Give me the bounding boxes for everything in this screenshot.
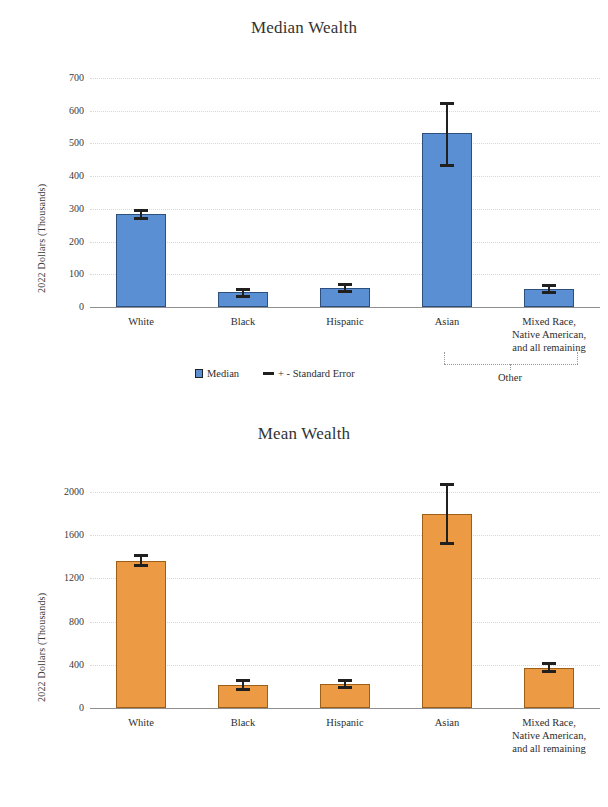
x-axis-tick-label-line: Black <box>188 716 298 729</box>
bracket-left-tick <box>444 352 445 364</box>
median-plot-area: 2022 Dollars (Thousands) 010020030040050… <box>0 38 608 338</box>
y-axis-tick-label: 200 <box>44 236 84 247</box>
x-axis-tick-label: Hispanic <box>290 716 400 729</box>
y-axis-tick-label: 700 <box>44 72 84 83</box>
y-axis-tick-label: 400 <box>44 659 84 670</box>
x-axis-tick-label: White <box>86 315 196 328</box>
error-bar-cap-upper <box>236 679 250 682</box>
legend-item-standard-error: + - Standard Error <box>263 368 355 379</box>
x-axis-line <box>90 307 600 308</box>
gridline <box>90 111 600 112</box>
x-axis-tick-label: Hispanic <box>290 315 400 328</box>
gridline <box>90 143 600 144</box>
gridline <box>90 176 600 177</box>
x-axis-tick-label-line: Mixed Race, <box>494 315 604 328</box>
error-bar-cap-lower <box>542 291 556 294</box>
error-bar-cap-lower <box>236 295 250 298</box>
gridline <box>90 492 600 493</box>
gridline <box>90 242 600 243</box>
gridline <box>90 535 600 536</box>
bracket-center-tick <box>510 364 511 370</box>
legend-swatch-median-icon <box>195 369 203 378</box>
chart-title-median: Median Wealth <box>0 0 608 38</box>
y-axis-tick-label: 500 <box>44 137 84 148</box>
error-bar-cap-upper <box>236 288 250 291</box>
y-axis-tick-label: 2000 <box>44 486 84 497</box>
gridline <box>90 622 600 623</box>
error-bar-cap-upper <box>542 662 556 665</box>
x-axis-line <box>90 708 600 709</box>
x-axis-tick-label: Black <box>188 315 298 328</box>
bracket-right-tick <box>577 352 578 364</box>
x-axis-tick-label-line: Hispanic <box>290 315 400 328</box>
x-axis-tick-label: Black <box>188 716 298 729</box>
error-bar-cap-lower <box>134 217 148 220</box>
error-bar-cap-lower <box>440 542 454 545</box>
y-axis-tick-label: 0 <box>44 301 84 312</box>
y-axis-tick-label: 800 <box>44 616 84 627</box>
y-axis-label-mean: 2022 Dollars (Thousands) <box>36 593 47 702</box>
error-bar-cap-lower <box>134 564 148 567</box>
x-axis-tick-label-line: White <box>86 315 196 328</box>
error-bar-cap-upper <box>542 284 556 287</box>
error-bar-cap-upper <box>134 209 148 212</box>
gridline <box>90 274 600 275</box>
x-axis-tick-label-line: Asian <box>392 315 502 328</box>
legend-median: Median + - Standard Error <box>195 368 355 379</box>
bar <box>116 561 166 708</box>
error-bar-line <box>446 103 448 165</box>
error-bar-cap-lower <box>236 688 250 691</box>
legend-item-median: Median <box>195 368 239 379</box>
mean-plot-area: 2022 Dollars (Thousands) 040080012001600… <box>0 444 608 734</box>
y-axis-tick-label: 0 <box>44 702 84 713</box>
y-axis-tick-label: 1600 <box>44 529 84 540</box>
mean-wealth-chart-panel: Mean Wealth 2022 Dollars (Thousands) 040… <box>0 410 608 807</box>
x-axis-tick-label-line: Mixed Race, <box>494 716 604 729</box>
x-axis-tick-label-line: Black <box>188 315 298 328</box>
gridline <box>90 209 600 210</box>
gridline <box>90 578 600 579</box>
x-axis-tick-label: Asian <box>392 716 502 729</box>
y-axis-tick-label: 600 <box>44 105 84 116</box>
error-bar-cap-upper <box>134 554 148 557</box>
error-bar-cap-upper <box>338 283 352 286</box>
other-bracket-label-median: Other <box>470 372 550 383</box>
legend-dash-error-icon <box>263 372 274 375</box>
x-axis-tick-label-line: Hispanic <box>290 716 400 729</box>
gridline <box>90 665 600 666</box>
y-axis-tick-label: 1200 <box>44 572 84 583</box>
x-axis-tick-label-line: Native American, <box>494 729 604 742</box>
x-axis-tick-label: Mixed Race,Native American,and all remai… <box>494 315 604 354</box>
x-axis-tick-label: Mixed Race,Native American,and all remai… <box>494 716 604 755</box>
y-axis-tick-label: 400 <box>44 170 84 181</box>
bar <box>524 668 574 709</box>
error-bar-line <box>446 484 448 543</box>
error-bar-cap-lower <box>338 290 352 293</box>
gridline <box>90 78 600 79</box>
legend-label-standard-error: + - Standard Error <box>278 368 355 379</box>
error-bar-cap-upper <box>440 102 454 105</box>
x-axis-tick-label-line: Native American, <box>494 328 604 341</box>
bracket-horizontal-line <box>444 364 578 365</box>
error-bar-cap-upper <box>440 483 454 486</box>
error-bar-cap-lower <box>542 670 556 673</box>
y-axis-tick-label: 300 <box>44 203 84 214</box>
error-bar-cap-lower <box>338 686 352 689</box>
chart-title-mean: Mean Wealth <box>0 410 608 444</box>
x-axis-tick-label-line: and all remaining <box>494 742 604 755</box>
x-axis-tick-label: Asian <box>392 315 502 328</box>
error-bar-cap-lower <box>440 164 454 167</box>
x-axis-tick-label-line: White <box>86 716 196 729</box>
x-axis-tick-label-line: Asian <box>392 716 502 729</box>
other-bracket-median <box>444 352 578 368</box>
bar <box>116 214 166 307</box>
median-wealth-chart-panel: Median Wealth 2022 Dollars (Thousands) 0… <box>0 0 608 410</box>
legend-label-median: Median <box>207 368 239 379</box>
y-axis-tick-label: 100 <box>44 268 84 279</box>
error-bar-cap-upper <box>338 679 352 682</box>
x-axis-tick-label: White <box>86 716 196 729</box>
